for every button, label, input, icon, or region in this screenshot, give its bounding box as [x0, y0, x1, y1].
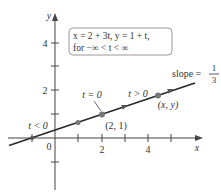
x-tick-label-2: 2 [100, 144, 105, 155]
parametric-line-diagram: 2 4 2 4 0 x y x = 2 + 3t, y = 1 + t, for… [0, 0, 221, 194]
slope-numerator: 1 [212, 63, 217, 73]
t-zero-leader-line [94, 101, 101, 111]
origin-label: 0 [47, 141, 52, 152]
point-2-1-label: (2, 1) [105, 120, 127, 132]
t-less-than-zero-label: t < 0 [28, 120, 48, 131]
y-axis-label: y [46, 10, 52, 21]
x-tick-label-4: 4 [146, 144, 151, 155]
point-x-y-label: (x, y) [158, 99, 179, 111]
x-axis-arrow-icon [195, 135, 203, 141]
slope-denominator: 3 [212, 75, 217, 85]
y-tick-label-4: 4 [43, 38, 48, 49]
t-equals-zero-label: t = 0 [82, 89, 102, 100]
y-axis [52, 13, 58, 190]
t-greater-than-zero-label: t > 0 [128, 88, 148, 99]
point-2-1 [99, 112, 105, 118]
equation-line-2: for −∞ < t < ∞ [73, 43, 128, 53]
point-t-neg [30, 136, 34, 140]
equation-line-1: x = 2 + 3t, y = 1 + t, [73, 31, 150, 41]
y-axis-arrow-icon [52, 13, 58, 21]
slope-label: slope = [172, 68, 202, 79]
point-x-y [155, 93, 161, 99]
y-tick-label-2: 2 [43, 85, 48, 96]
x-axis-label: x [194, 142, 200, 153]
point-1 [76, 120, 81, 125]
